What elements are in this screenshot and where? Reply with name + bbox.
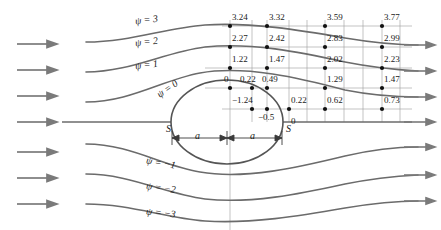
- node-value-label: 0.22: [291, 96, 307, 105]
- grid-node-dot: [228, 24, 232, 28]
- streamline-psi-m2: [86, 174, 418, 200]
- grid-node-dot: [323, 24, 327, 28]
- node-value-label: 2.02: [327, 55, 343, 64]
- grid-node-dot: [265, 107, 269, 111]
- inflow-arrows: [17, 41, 57, 208]
- figure-canvas: ψ = 3 ψ = 2 ψ = 1 ψ = 0 ψ = −1 ψ = −2 ψ …: [0, 0, 441, 230]
- node-value-label: 1.22: [232, 55, 248, 64]
- grid-node-dot: [323, 45, 327, 49]
- dimension-bar: [172, 131, 282, 145]
- streamlines-lower: [86, 144, 418, 222]
- grid-node-dot: [323, 86, 327, 90]
- node-value-label: 3.24: [232, 13, 248, 22]
- outflow-arrow: [404, 68, 435, 74]
- outflow-arrow: [404, 172, 435, 178]
- grid-node-dot: [265, 24, 269, 28]
- inflow-arrow: [17, 175, 57, 182]
- outflow-arrows: [404, 42, 435, 204]
- grid-node-dot: [323, 107, 327, 111]
- node-value-label: 2.99: [384, 34, 400, 43]
- grid-node-dot: [380, 107, 384, 111]
- inflow-arrow: [17, 41, 57, 48]
- grid-node-dot: [380, 45, 384, 49]
- grid-node-dot: [265, 45, 269, 49]
- grid-node-dot: [265, 86, 269, 90]
- node-value-label: 2.23: [384, 55, 400, 64]
- node-value-label: −1.24: [232, 96, 253, 105]
- node-value-label: 1.47: [384, 75, 400, 84]
- node-value-label: 0.62: [327, 96, 343, 105]
- dim-arrow: [227, 135, 234, 141]
- dimension-label-a-right: a: [250, 131, 255, 141]
- node-value-label: 0.49: [262, 75, 278, 84]
- grid-node-dot: [323, 66, 327, 70]
- node-value-label: 3.32: [269, 13, 285, 22]
- node-value-label: 3.59: [327, 13, 343, 22]
- grid-node-dot: [380, 86, 384, 90]
- node-value-label: −0.5: [258, 113, 274, 122]
- grid-node-dot: [287, 107, 291, 111]
- inflow-arrow: [17, 93, 57, 100]
- inflow-arrow: [17, 67, 57, 74]
- grid-node-dot: [380, 24, 384, 28]
- node-value-label: 2.42: [269, 34, 285, 43]
- stagnation-label-front: S: [166, 124, 171, 134]
- node-value-label: 1.47: [269, 55, 285, 64]
- inflow-arrow: [17, 201, 57, 208]
- streamline-psi-m3: [86, 201, 418, 222]
- grid-node-dot: [228, 86, 232, 90]
- rankine-oval-body: [171, 80, 283, 164]
- grid-node-dot: [250, 86, 254, 90]
- node-value-label: 0.73: [384, 96, 400, 105]
- node-value-label: 1.29: [327, 75, 343, 84]
- grid-node-dot: [265, 66, 269, 70]
- grid-node-dot: [228, 66, 232, 70]
- grid-node-dot: [250, 107, 254, 111]
- outflow-arrow: [404, 119, 435, 125]
- streamline-plot: [0, 0, 441, 230]
- dimension-label-a-left: a: [195, 131, 200, 141]
- inflow-arrow: [17, 119, 57, 126]
- node-value-label: 3.77: [384, 13, 400, 22]
- node-value-label: 2.83: [327, 34, 343, 43]
- outflow-arrow: [404, 144, 435, 150]
- node-value-label: 0.22: [240, 75, 256, 84]
- inflow-arrow: [17, 149, 57, 156]
- node-value-label: 0: [224, 75, 229, 84]
- node-value-label: 2.27: [232, 34, 248, 43]
- outflow-arrow: [404, 198, 435, 204]
- node-value-label: 0: [291, 117, 296, 126]
- outflow-arrow: [404, 94, 435, 100]
- grid-node-dot: [380, 66, 384, 70]
- grid-node-dot: [228, 45, 232, 49]
